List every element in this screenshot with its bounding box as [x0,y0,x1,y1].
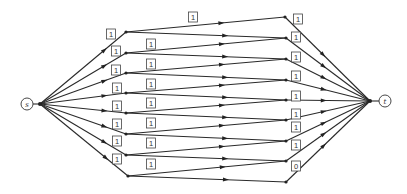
capacity-value: 1 [149,160,153,169]
middle-edge-label: 1 [147,138,156,148]
capacity-value: 1 [149,60,153,69]
flow-network-diagram: 1111111111111111111111110 st [0,0,407,194]
capacity-value: 1 [115,84,119,93]
capacity-value: 1 [149,119,153,128]
sink-edge-label: 1 [292,140,301,150]
capacity-value: 1 [294,110,298,119]
edge-right-6-t [286,101,370,141]
node-dot [284,36,287,39]
node-dot [284,180,287,183]
arrowhead-icon [222,95,228,99]
arrowhead-icon [320,75,327,81]
sink-edge-label: 1 [292,32,301,42]
node-dot [124,91,127,94]
capacity-value: 1 [191,13,195,22]
arrowhead-icon [218,21,224,26]
node-dot [284,57,287,60]
capacity-value: 1 [115,137,119,146]
node-dot [283,15,286,18]
arrowhead-icon [222,115,228,119]
node-dot [284,98,287,101]
node-dot [284,159,287,162]
source-node-s: s [21,98,33,110]
middle-edge-label: 1 [147,118,156,128]
sink-edge-label: 1 [294,14,303,24]
sink-edge-label: 1 [292,71,301,81]
arrowhead-icon [222,55,228,59]
node-dot [124,51,127,54]
sink-edge-label: 1 [292,91,301,101]
sink-hub [368,99,372,103]
capacity-value: 1 [115,102,119,111]
source-edge-label: 1 [113,83,122,93]
arrowhead-icon [220,165,226,170]
arrowhead-icon [219,103,225,107]
edge-left-7-right-8 [128,176,286,182]
sink-edge-label: 0 [292,161,301,171]
node-dot [284,78,287,81]
node-dot [124,153,127,156]
edge-left-0-right-1 [126,32,286,38]
node-dot [124,30,127,33]
source-edge-label: 1 [112,65,121,75]
node-dot [126,174,129,177]
capacity-value: 1 [114,66,118,75]
sink-edge-label: 1 [292,122,301,132]
middle-edge-label: 1 [147,59,156,69]
capacity-value: 1 [115,155,119,164]
source-edge-label: 1 [112,46,121,56]
capacity-value: 1 [294,72,298,81]
source-edge-label: 1 [107,29,116,39]
arrowhead-icon [321,98,327,102]
capacity-value: 1 [294,141,298,150]
capacity-value: 1 [115,120,119,129]
capacity-value: 0 [294,162,298,171]
arrowhead-icon [320,87,327,92]
source-edge-label: 1 [113,154,122,164]
sink-edge-label: 1 [292,109,301,119]
arrowhead-icon [222,75,228,79]
arrowhead-icon [101,78,108,84]
arrowhead-icon [222,34,228,38]
arrowhead-icon [223,178,229,182]
arrowhead-icon [219,42,225,47]
arrowhead-icon [222,157,228,161]
node-dot [284,118,287,121]
arrowhead-icon [101,108,107,113]
arrowhead-icon [219,83,225,87]
capacity-value: 1 [149,80,153,89]
middle-edge-label: 1 [189,12,198,22]
capacity-value: 1 [296,15,300,24]
arrowhead-icon [219,62,225,67]
capacity-value: 1 [149,40,153,49]
edge-s-left-1 [40,53,126,104]
capacity-value: 1 [149,139,153,148]
arrowhead-icon [219,123,225,128]
middle-edge-label: 1 [147,79,156,89]
arrowhead-icon [101,124,108,130]
middle-edge-label: 1 [147,159,156,169]
capacity-value: 1 [294,92,298,101]
edge-labels-layer: 1111111111111111111111110 [107,12,303,171]
capacity-value: 1 [294,33,298,42]
node-dot [124,71,127,74]
arrowhead-icon [222,136,228,140]
source-edge-label: 1 [113,136,122,146]
node-dot [284,139,287,142]
svg-text:s: s [25,101,29,109]
sink-edge-label: 1 [292,52,301,62]
capacity-value: 1 [149,99,153,108]
arrowhead-icon [101,62,108,69]
svg-text:t: t [384,98,387,106]
capacity-value: 1 [114,47,118,56]
middle-edge-label: 1 [147,39,156,49]
capacity-value: 1 [294,53,298,62]
arrowhead-icon [320,120,327,126]
source-edge-label: 1 [113,119,122,129]
capacity-value: 1 [109,30,113,39]
arrowhead-icon [101,139,108,146]
node-dot [124,111,127,114]
capacity-value: 1 [294,123,298,132]
edge-left-1-right-2 [126,53,286,59]
edges-layer [33,17,379,182]
